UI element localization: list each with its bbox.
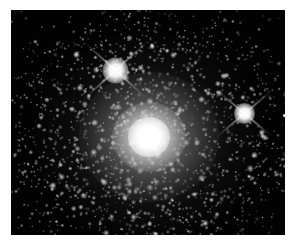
- photo-frame: [0, 0, 296, 246]
- resolved-star-field: [11, 10, 285, 235]
- faint-edge-star: [283, 114, 285, 117]
- sky-field: [11, 10, 285, 235]
